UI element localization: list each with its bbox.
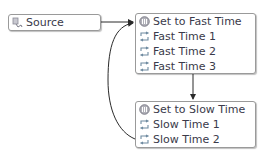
- fast-time-2-item[interactable]: Fast Time 2: [136, 44, 255, 59]
- slow-time-1-item[interactable]: Slow Time 1: [136, 117, 255, 132]
- slow-time-2-item[interactable]: Slow Time 2: [136, 132, 255, 147]
- loop-icon: [139, 61, 150, 72]
- source-label: Source: [26, 16, 64, 29]
- fast-time-1-item[interactable]: Fast Time 1: [136, 29, 255, 44]
- set-slow-time-item[interactable]: Set to Slow Time: [136, 102, 255, 117]
- set-time-icon: [139, 104, 150, 115]
- loop-icon: [139, 31, 150, 42]
- fast-time-3-item[interactable]: Fast Time 3: [136, 59, 255, 74]
- set-time-icon: [139, 16, 150, 27]
- loop-icon: [139, 134, 150, 145]
- fast-time-group[interactable]: Set to Fast Time Fast Time 1 Fast Time 2…: [135, 13, 256, 74]
- loop-icon: [139, 46, 150, 57]
- slow-time-group[interactable]: Set to Slow Time Slow Time 1 Slow Time 2: [135, 101, 256, 148]
- source-node[interactable]: Source: [8, 14, 101, 31]
- slow-to-fast-loop-wire: [108, 23, 135, 139]
- loop-icon: [139, 119, 150, 130]
- source-icon: [12, 17, 23, 28]
- set-fast-time-item[interactable]: Set to Fast Time: [136, 14, 255, 29]
